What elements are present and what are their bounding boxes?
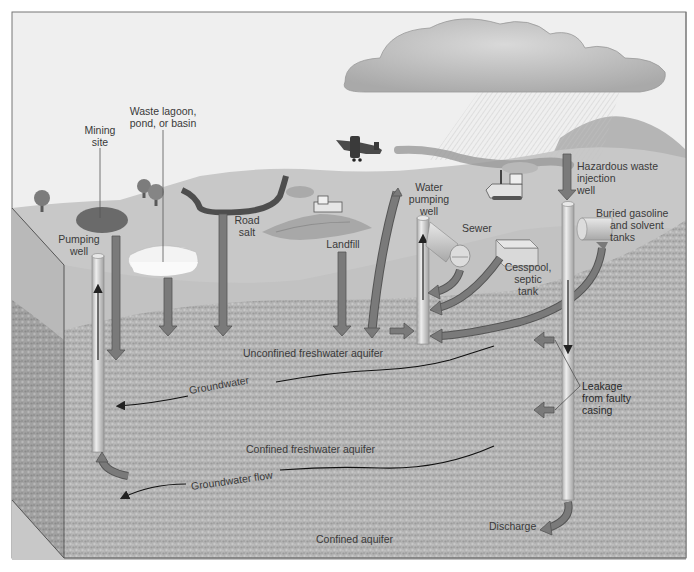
- label-line: Buried gasoline: [596, 207, 668, 219]
- label-hazardous-waste-injection-well: Hazardous waste injection well: [577, 160, 658, 196]
- label-pumping-well: Pumping well: [50, 233, 108, 257]
- label-leakage: Leakage from faulty casing: [582, 380, 631, 416]
- pumping-well: [92, 254, 104, 453]
- label-confined-aquifer: Confined aquifer: [316, 533, 393, 545]
- label-line: injection: [577, 172, 658, 184]
- smoke: [502, 162, 538, 174]
- label-water-pumping-well: Water pumping well: [404, 181, 454, 217]
- water-pumping-well: [417, 216, 429, 345]
- label-discharge: Discharge: [489, 520, 536, 532]
- label-landfill: Landfill: [318, 238, 368, 250]
- label-line: pond, or basin: [118, 117, 208, 129]
- label-line: pumping: [404, 193, 454, 205]
- label-line: well: [404, 205, 454, 217]
- label-sewer: Sewer: [462, 222, 492, 234]
- label-confined-freshwater-aquifer: Confined freshwater aquifer: [246, 443, 375, 455]
- label-line: Road: [230, 214, 264, 226]
- label-line: well: [50, 245, 108, 257]
- label-line: Water: [404, 181, 454, 193]
- label-line: septic: [500, 273, 556, 285]
- label-line: casing: [582, 404, 631, 416]
- label-line: site: [76, 136, 124, 148]
- label-line: Mining: [76, 124, 124, 136]
- label-line: Hazardous waste: [577, 160, 658, 172]
- label-line: Pumping: [50, 233, 108, 245]
- label-waste-lagoon: Waste lagoon, pond, or basin: [118, 105, 208, 129]
- label-line: Leakage: [582, 380, 631, 392]
- label-line: Waste lagoon,: [118, 105, 208, 117]
- label-line: well: [577, 184, 658, 196]
- label-line: and solvent: [596, 219, 668, 231]
- label-line: from faulty: [582, 392, 631, 404]
- hazardous-waste-injection-well: [562, 202, 574, 501]
- mining-site: [76, 207, 128, 233]
- label-mining-site: Mining site: [76, 124, 124, 148]
- label-unconfined-aquifer: Unconfined freshwater aquifer: [243, 347, 383, 359]
- label-road-salt: Road salt: [230, 214, 264, 238]
- label-line: tanks: [596, 231, 668, 243]
- label-buried-tanks: Buried gasoline and solvent tanks: [596, 207, 668, 243]
- label-line: salt: [230, 226, 264, 238]
- groundwater-contamination-diagram: Mining site Waste lagoon, pond, or basin…: [0, 0, 694, 572]
- label-cesspool: Cesspool, septic tank: [500, 261, 556, 297]
- label-line: Cesspool,: [500, 261, 556, 273]
- label-line: tank: [500, 285, 556, 297]
- diagram-canvas: [0, 0, 694, 572]
- smoke: [286, 186, 314, 198]
